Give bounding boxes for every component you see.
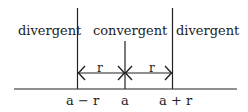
radius-label-left: r <box>97 62 103 75</box>
region-label-right: divergent <box>176 24 239 37</box>
radius-label-right: r <box>149 62 155 75</box>
tick-label-a-minus-r: a − r <box>66 94 99 107</box>
region-label-center: convergent <box>93 24 167 37</box>
tick-label-a: a <box>121 94 129 107</box>
tick-label-a-plus-r: a + r <box>159 94 192 107</box>
region-label-left: divergent <box>18 24 81 37</box>
